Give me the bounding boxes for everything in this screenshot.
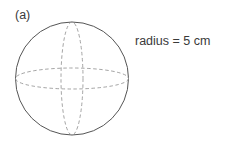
equator-dashed-ellipse xyxy=(16,68,129,89)
sphere-outline xyxy=(16,22,129,135)
sphere-diagram xyxy=(0,0,236,143)
meridian-dashed-ellipse xyxy=(61,22,83,135)
